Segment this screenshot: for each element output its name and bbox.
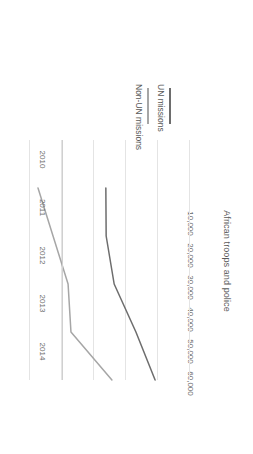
legend-swatch-un-missions	[169, 88, 171, 124]
y-axis-title: African troops and police	[222, 191, 232, 331]
series-line-non-un-missions	[38, 188, 112, 380]
legend-entry-un-missions[interactable]: UN missions	[161, 4, 179, 124]
legend-entry-non-un-missions[interactable]: Non-UN missions	[139, 4, 157, 124]
x-axis-tick-label-2012: 2012	[38, 241, 47, 271]
x-axis-tick-label-2011: 2011	[38, 193, 47, 223]
x-axis-tick-label-2013: 2013	[38, 289, 47, 319]
chart-legend: UN missions Non-UN missions	[59, 4, 179, 124]
series-canvas	[0, 140, 190, 380]
legend-swatch-non-un-missions	[147, 88, 149, 124]
legend-label-un-missions: UN missions	[156, 84, 166, 132]
category-axis-line	[62, 140, 63, 380]
x-axis-tick-label-2010: 2010	[38, 145, 47, 175]
series-line-un-missions	[106, 188, 155, 380]
plot-area	[63, 140, 190, 380]
line-chart-figure: African troops and police 60,000 50,000 …	[0, 0, 253, 454]
x-axis-tick-label-2014: 2014	[38, 337, 47, 367]
rotated-figure-wrapper: African troops and police 60,000 50,000 …	[0, 0, 253, 454]
legend-label-non-un-missions: Non-UN missions	[134, 84, 144, 150]
